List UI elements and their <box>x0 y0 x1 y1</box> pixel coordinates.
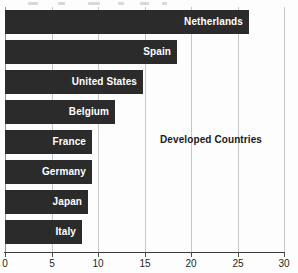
bar-netherlands: Netherlands <box>5 10 249 34</box>
bar-row: Belgium <box>0 100 298 124</box>
x-tick-30 <box>284 252 285 257</box>
bar-row: Italy <box>0 220 298 244</box>
cropped-text-artifact <box>0 0 298 7</box>
bar-row: Germany <box>0 160 298 184</box>
bar-japan: Japan <box>5 190 88 214</box>
bar-row: United States <box>0 70 298 94</box>
bar-france: France <box>5 130 92 154</box>
x-tick-label-20: 20 <box>185 258 196 269</box>
bar-label-united-states: United States <box>72 70 137 94</box>
x-tick-label-10: 10 <box>92 258 103 269</box>
bar-spain: Spain <box>5 40 177 64</box>
x-tick-15 <box>145 252 146 257</box>
x-tick-label-30: 30 <box>278 258 289 269</box>
bar-label-germany: Germany <box>42 160 86 184</box>
bar-label-japan: Japan <box>53 190 82 214</box>
bar-label-belgium: Belgium <box>69 100 109 124</box>
bar-label-netherlands: Netherlands <box>184 10 243 34</box>
x-tick-5 <box>52 252 53 257</box>
x-tick-label-15: 15 <box>139 258 150 269</box>
x-tick-20 <box>191 252 192 257</box>
annotation-developed-countries: Developed Countries <box>160 134 262 145</box>
x-tick-label-5: 5 <box>49 258 55 269</box>
bar-label-spain: Spain <box>143 40 171 64</box>
horizontal-bar-chart: NetherlandsSpainUnited StatesBelgiumFran… <box>0 0 298 273</box>
x-tick-label-25: 25 <box>232 258 243 269</box>
bar-united-states: United States <box>5 70 143 94</box>
bar-label-italy: Italy <box>55 220 76 244</box>
bar-italy: Italy <box>5 220 82 244</box>
plot-area: NetherlandsSpainUnited StatesBelgiumFran… <box>0 7 298 252</box>
x-tick-0 <box>5 252 6 257</box>
bar-label-france: France <box>53 130 86 154</box>
bar-germany: Germany <box>5 160 92 184</box>
x-tick-10 <box>98 252 99 257</box>
bar-row: Spain <box>0 40 298 64</box>
x-tick-25 <box>238 252 239 257</box>
x-tick-label-0: 0 <box>2 258 8 269</box>
bar-belgium: Belgium <box>5 100 115 124</box>
bar-row: Japan <box>0 190 298 214</box>
bar-row: Netherlands <box>0 10 298 34</box>
